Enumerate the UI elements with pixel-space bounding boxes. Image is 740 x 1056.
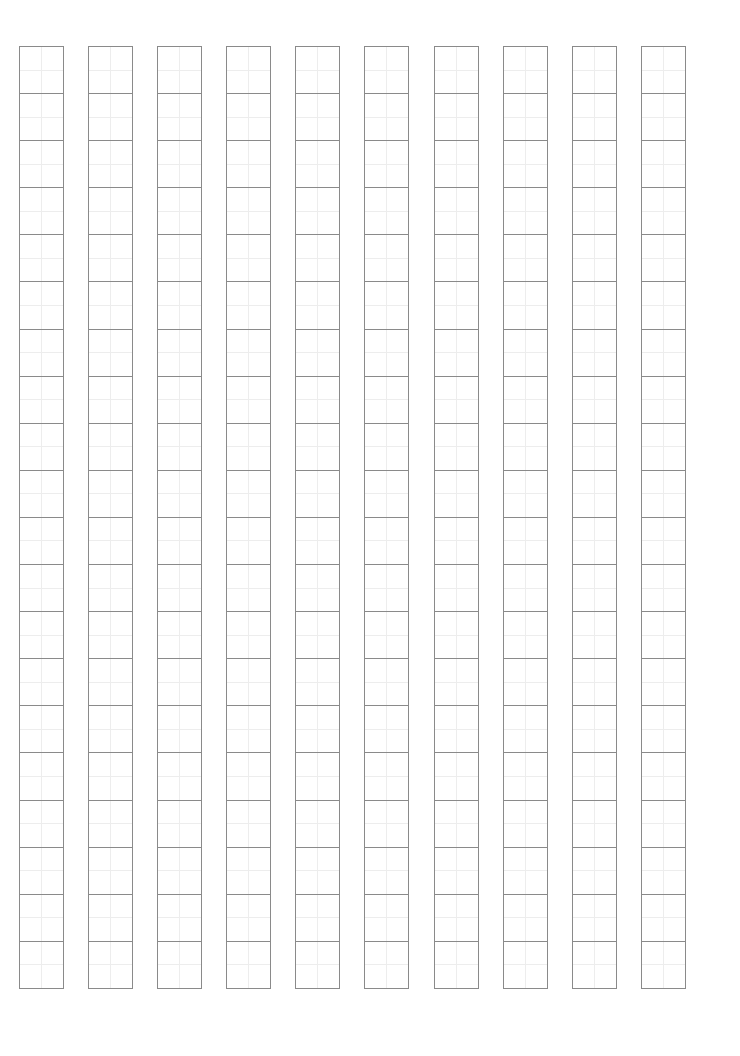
practice-cell[interactable]	[19, 423, 64, 471]
practice-cell[interactable]	[226, 140, 271, 188]
practice-cell[interactable]	[364, 234, 409, 282]
practice-cell[interactable]	[572, 658, 617, 706]
practice-cell[interactable]	[434, 800, 479, 848]
practice-cell[interactable]	[434, 46, 479, 94]
practice-cell[interactable]	[503, 705, 548, 753]
practice-cell[interactable]	[19, 658, 64, 706]
practice-cell[interactable]	[19, 376, 64, 424]
practice-cell[interactable]	[364, 423, 409, 471]
practice-cell[interactable]	[572, 46, 617, 94]
practice-cell[interactable]	[364, 752, 409, 800]
practice-cell[interactable]	[88, 941, 133, 989]
practice-cell[interactable]	[157, 941, 202, 989]
practice-cell[interactable]	[641, 941, 686, 989]
practice-cell[interactable]	[19, 234, 64, 282]
practice-cell[interactable]	[641, 281, 686, 329]
practice-cell[interactable]	[295, 894, 340, 942]
practice-cell[interactable]	[572, 140, 617, 188]
practice-cell[interactable]	[226, 800, 271, 848]
practice-cell[interactable]	[641, 234, 686, 282]
practice-cell[interactable]	[157, 800, 202, 848]
practice-cell[interactable]	[157, 658, 202, 706]
practice-cell[interactable]	[295, 847, 340, 895]
practice-cell[interactable]	[226, 376, 271, 424]
practice-cell[interactable]	[226, 93, 271, 141]
practice-cell[interactable]	[88, 234, 133, 282]
practice-cell[interactable]	[503, 847, 548, 895]
practice-cell[interactable]	[88, 376, 133, 424]
practice-cell[interactable]	[641, 93, 686, 141]
practice-cell[interactable]	[364, 93, 409, 141]
practice-cell[interactable]	[88, 423, 133, 471]
practice-cell[interactable]	[503, 187, 548, 235]
practice-cell[interactable]	[19, 752, 64, 800]
practice-cell[interactable]	[364, 847, 409, 895]
practice-cell[interactable]	[19, 46, 64, 94]
practice-cell[interactable]	[295, 187, 340, 235]
practice-cell[interactable]	[226, 470, 271, 518]
practice-cell[interactable]	[641, 46, 686, 94]
practice-cell[interactable]	[19, 187, 64, 235]
practice-cell[interactable]	[572, 329, 617, 377]
practice-cell[interactable]	[226, 423, 271, 471]
practice-cell[interactable]	[572, 376, 617, 424]
practice-cell[interactable]	[434, 470, 479, 518]
practice-cell[interactable]	[641, 800, 686, 848]
practice-cell[interactable]	[19, 564, 64, 612]
practice-cell[interactable]	[364, 376, 409, 424]
practice-cell[interactable]	[226, 329, 271, 377]
practice-cell[interactable]	[364, 705, 409, 753]
practice-cell[interactable]	[88, 187, 133, 235]
practice-cell[interactable]	[88, 517, 133, 565]
practice-cell[interactable]	[572, 611, 617, 659]
practice-cell[interactable]	[641, 894, 686, 942]
practice-cell[interactable]	[157, 329, 202, 377]
practice-cell[interactable]	[157, 140, 202, 188]
practice-cell[interactable]	[434, 941, 479, 989]
practice-cell[interactable]	[572, 564, 617, 612]
practice-cell[interactable]	[295, 140, 340, 188]
practice-cell[interactable]	[157, 517, 202, 565]
practice-cell[interactable]	[572, 423, 617, 471]
practice-cell[interactable]	[503, 894, 548, 942]
practice-cell[interactable]	[295, 376, 340, 424]
practice-cell[interactable]	[434, 517, 479, 565]
practice-cell[interactable]	[295, 281, 340, 329]
practice-cell[interactable]	[295, 517, 340, 565]
practice-cell[interactable]	[364, 281, 409, 329]
practice-cell[interactable]	[295, 329, 340, 377]
practice-cell[interactable]	[434, 752, 479, 800]
practice-cell[interactable]	[503, 941, 548, 989]
practice-cell[interactable]	[641, 470, 686, 518]
practice-cell[interactable]	[295, 46, 340, 94]
practice-cell[interactable]	[572, 800, 617, 848]
practice-cell[interactable]	[19, 894, 64, 942]
practice-cell[interactable]	[226, 46, 271, 94]
practice-cell[interactable]	[434, 847, 479, 895]
practice-cell[interactable]	[226, 517, 271, 565]
practice-cell[interactable]	[572, 941, 617, 989]
practice-cell[interactable]	[157, 470, 202, 518]
practice-cell[interactable]	[19, 611, 64, 659]
practice-cell[interactable]	[295, 564, 340, 612]
practice-cell[interactable]	[157, 376, 202, 424]
practice-cell[interactable]	[434, 93, 479, 141]
practice-cell[interactable]	[88, 705, 133, 753]
practice-cell[interactable]	[503, 93, 548, 141]
practice-cell[interactable]	[226, 752, 271, 800]
practice-cell[interactable]	[157, 847, 202, 895]
practice-cell[interactable]	[88, 46, 133, 94]
practice-cell[interactable]	[641, 658, 686, 706]
practice-cell[interactable]	[88, 611, 133, 659]
practice-cell[interactable]	[157, 752, 202, 800]
practice-cell[interactable]	[226, 187, 271, 235]
practice-cell[interactable]	[157, 564, 202, 612]
practice-cell[interactable]	[572, 93, 617, 141]
practice-cell[interactable]	[226, 658, 271, 706]
practice-cell[interactable]	[641, 564, 686, 612]
practice-cell[interactable]	[434, 329, 479, 377]
practice-cell[interactable]	[364, 894, 409, 942]
practice-cell[interactable]	[572, 187, 617, 235]
practice-cell[interactable]	[572, 470, 617, 518]
practice-cell[interactable]	[641, 329, 686, 377]
